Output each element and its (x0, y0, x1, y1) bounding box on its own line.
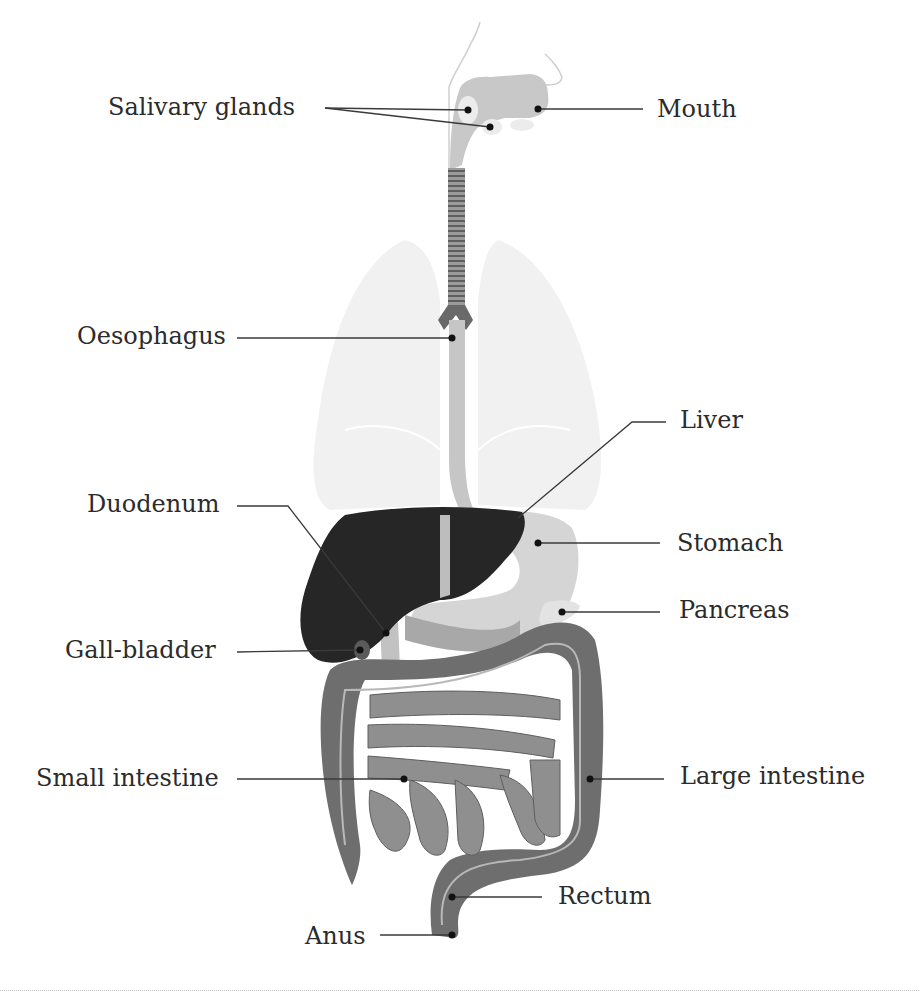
label-large-intestine: Large intestine (680, 762, 865, 790)
liver-ligament (440, 515, 450, 598)
label-salivary-glands: Salivary glands (108, 93, 295, 121)
label-gall-bladder: Gall-bladder (65, 636, 216, 664)
gall-bladder-dot (357, 647, 364, 654)
duodenum-dot (383, 630, 390, 637)
large-intestine-dot (587, 776, 594, 783)
label-oesophagus: Oesophagus (77, 322, 226, 350)
label-rectum: Rectum (558, 882, 652, 910)
salivary-gland-dot-2 (487, 124, 494, 131)
salivary-gland-dot-1 (465, 107, 472, 114)
label-pancreas: Pancreas (679, 596, 790, 624)
stomach-dot (535, 540, 542, 547)
label-mouth: Mouth (657, 95, 737, 123)
label-duodenum: Duodenum (87, 490, 219, 518)
label-stomach: Stomach (677, 529, 784, 557)
rectum-dot (449, 894, 456, 901)
small-intestine-dot (401, 776, 408, 783)
oesophagus-dot (449, 335, 456, 342)
label-anus: Anus (305, 922, 366, 950)
small-intestine (368, 691, 560, 855)
mouth-dot (535, 106, 542, 113)
anus-dot (449, 932, 456, 939)
label-small-intestine: Small intestine (36, 764, 219, 792)
trachea (438, 168, 473, 330)
bottom-divider (0, 990, 919, 991)
mouth-cavity (450, 74, 548, 170)
pancreas-dot (559, 609, 566, 616)
label-liver: Liver (680, 406, 743, 434)
oesophagus (449, 320, 478, 520)
